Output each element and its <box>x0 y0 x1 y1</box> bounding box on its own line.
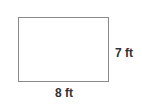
height-label: 7 ft <box>115 46 133 60</box>
rectangle-shape <box>18 17 109 82</box>
width-label: 8 ft <box>55 86 73 100</box>
